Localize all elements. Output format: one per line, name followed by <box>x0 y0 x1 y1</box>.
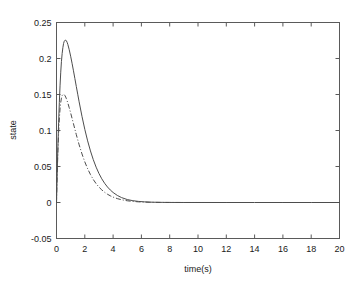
x-tick-label: 4 <box>111 244 116 254</box>
y-tick-label: 0.1 <box>39 126 52 136</box>
line-chart: -0.0500.050.10.150.20.25 024681012141618… <box>0 0 360 292</box>
x-tick-label: 8 <box>167 244 172 254</box>
x-axis-title: time(s) <box>184 264 212 274</box>
y-axis-title: state <box>8 120 18 140</box>
y-tick-label: 0 <box>46 198 51 208</box>
y-tick-label: 0.2 <box>39 54 52 64</box>
x-tick-label: 0 <box>54 244 59 254</box>
x-tick-label: 10 <box>193 244 203 254</box>
x-tick-label: 16 <box>278 244 288 254</box>
y-tick-label: 0.05 <box>34 162 52 172</box>
x-tick-label: 12 <box>221 244 231 254</box>
y-tick-label: -0.05 <box>31 234 52 244</box>
y-tick-label: 0.25 <box>34 18 52 28</box>
x-tick-label: 18 <box>306 244 316 254</box>
x-tick-label: 20 <box>334 244 344 254</box>
x-tick-label: 2 <box>82 244 87 254</box>
x-tick-label: 14 <box>250 244 260 254</box>
figure-container: -0.0500.050.10.150.20.25 024681012141618… <box>0 0 360 292</box>
x-tick-label: 6 <box>139 244 144 254</box>
y-tick-label: 0.15 <box>34 90 52 100</box>
